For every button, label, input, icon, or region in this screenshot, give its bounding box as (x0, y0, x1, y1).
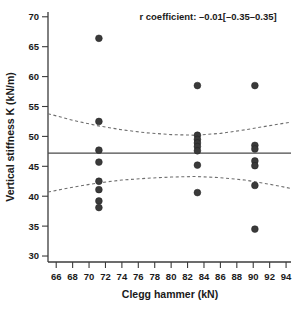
y-tick-label: 65 (28, 41, 39, 52)
x-tick-label: 80 (166, 271, 177, 282)
plot-axes (48, 12, 291, 262)
y-tick-label: 45 (28, 161, 39, 172)
data-point (194, 147, 201, 154)
data-point (251, 182, 258, 189)
x-tick-label: 76 (133, 271, 144, 282)
x-tick-label: 90 (248, 271, 259, 282)
data-point (96, 35, 103, 42)
x-tick-label: 88 (232, 271, 243, 282)
y-tick-label: 60 (28, 71, 39, 82)
data-point (96, 147, 103, 154)
x-tick-label: 92 (264, 271, 275, 282)
x-axis-title: Clegg hammer (kN) (122, 288, 218, 300)
chart-figure: 303540455055606570 666870727476788082848… (0, 0, 304, 310)
x-tick-label: 82 (182, 271, 193, 282)
data-points (96, 35, 259, 233)
y-tick-label: 70 (28, 11, 39, 22)
x-tick-label: 84 (199, 271, 210, 282)
y-tick-label: 40 (28, 191, 39, 202)
data-point (96, 178, 103, 185)
data-point (251, 226, 258, 233)
x-tick-label: 86 (215, 271, 226, 282)
x-tick-label: 70 (84, 271, 95, 282)
x-tick-label: 68 (67, 271, 78, 282)
upper-confidence-band (48, 114, 291, 136)
y-tick-label: 35 (28, 221, 39, 232)
data-point (96, 159, 103, 166)
data-point (96, 198, 103, 205)
x-tick-label: 94 (281, 271, 292, 282)
data-point (96, 186, 103, 193)
x-tick-label: 78 (149, 271, 160, 282)
data-point (194, 162, 201, 169)
data-point (194, 82, 201, 89)
data-point (96, 204, 103, 211)
y-axis-ticks: 303540455055606570 (28, 11, 48, 261)
r-coefficient: r coefficient: –0.01[–0.35–0.35] (139, 11, 276, 22)
data-point (251, 162, 258, 169)
data-point (251, 146, 258, 153)
y-tick-label: 30 (28, 250, 39, 261)
y-axis-title: Vertical stiffness K (kN/m) (4, 72, 16, 202)
data-point (96, 118, 103, 125)
x-tick-label: 74 (117, 271, 128, 282)
x-tick-label: 66 (51, 271, 62, 282)
y-tick-label: 55 (28, 101, 39, 112)
x-tick-label: 72 (100, 271, 111, 282)
x-axis-ticks: 666870727476788082848688909294 (51, 262, 292, 282)
y-tick-label: 50 (28, 131, 39, 142)
scatter-plot: 303540455055606570 666870727476788082848… (0, 0, 304, 310)
chart-annotations: r coefficient: –0.01[–0.35–0.35] (139, 11, 276, 22)
data-point (251, 82, 258, 89)
data-point (194, 189, 201, 196)
